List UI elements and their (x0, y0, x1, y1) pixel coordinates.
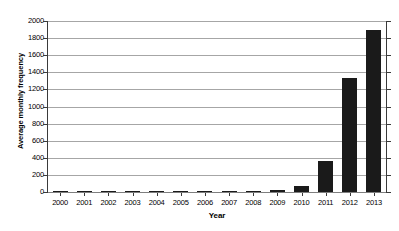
y-axis-tick-label: 0 (18, 188, 44, 196)
x-axis-tick-label: 2012 (338, 198, 362, 207)
x-axis-tick-label: 2008 (241, 198, 265, 207)
bar (294, 186, 309, 192)
y-axis-tick-label: 400 (18, 154, 44, 162)
x-axis-tick-label: 2013 (362, 198, 386, 207)
x-axis-tick-mark (205, 193, 206, 196)
bar (270, 190, 285, 192)
x-axis-tick-label: 2006 (193, 198, 217, 207)
axis-tick-mark (43, 72, 47, 73)
x-axis-tick-label: 2004 (145, 198, 169, 207)
axis-tick-mark (43, 141, 47, 142)
bar (101, 191, 116, 192)
x-axis-tick-label: 2010 (289, 198, 313, 207)
y-axis-tick-label: 1400 (18, 68, 44, 76)
bar (246, 191, 261, 192)
axis-tick-mark (43, 21, 47, 22)
y-axis-tick-label: 600 (18, 137, 44, 145)
y-axis-tick-label: 1600 (18, 51, 44, 59)
axis-tick-mark (387, 38, 391, 39)
bar (173, 191, 188, 192)
x-axis-tick-mark (157, 193, 158, 196)
x-axis-tick-mark (133, 193, 134, 196)
x-axis-tick-label: 2009 (265, 198, 289, 207)
y-axis-tick-label: 1800 (18, 34, 44, 42)
x-axis-tick-mark (326, 193, 327, 196)
bar-chart-figure: Average monthly frequency 02004006008001… (0, 0, 399, 231)
bar (125, 191, 140, 192)
axis-tick-mark (387, 175, 391, 176)
axis-tick-mark (43, 158, 47, 159)
y-axis-tick-label: 2000 (18, 17, 44, 25)
bar (77, 191, 92, 192)
y-axis-tick-label: 1000 (18, 103, 44, 111)
axis-tick-mark (387, 192, 391, 193)
bar (197, 191, 212, 192)
x-axis-tick-label: 2001 (72, 198, 96, 207)
axis-tick-mark (387, 141, 391, 142)
x-axis-tick-label: 2011 (314, 198, 338, 207)
x-axis-tick-labels: 2000200120022003200420052006200720082009… (48, 198, 386, 209)
x-axis-tick-mark (84, 193, 85, 196)
bar (222, 191, 237, 192)
x-axis-tick-mark (181, 193, 182, 196)
x-axis-tick-mark (350, 193, 351, 196)
x-axis-tick-mark (229, 193, 230, 196)
x-axis-tick-label: 2002 (96, 198, 120, 207)
y-axis-tick-label: 200 (18, 171, 44, 179)
axis-tick-mark (43, 55, 47, 56)
y-axis-tick-label: 800 (18, 120, 44, 128)
axis-tick-mark (43, 107, 47, 108)
x-axis-tick-mark (253, 193, 254, 196)
axis-tick-mark (387, 72, 391, 73)
axis-tick-mark (387, 55, 391, 56)
bar (149, 191, 164, 192)
x-axis-tick-label: 2007 (217, 198, 241, 207)
axis-tick-mark (387, 124, 391, 125)
bar (366, 30, 381, 192)
gridline (48, 192, 386, 193)
axis-tick-mark (387, 21, 391, 22)
x-axis-tick-mark (374, 193, 375, 196)
x-axis-tick-mark (108, 193, 109, 196)
x-axis-tick-label: 2005 (169, 198, 193, 207)
axis-tick-mark (43, 38, 47, 39)
axis-tick-mark (387, 158, 391, 159)
axis-tick-mark (43, 192, 47, 193)
bar (318, 161, 333, 192)
x-axis-tick-label: 2003 (120, 198, 144, 207)
x-axis-tick-mark (60, 193, 61, 196)
axis-tick-mark (387, 89, 391, 90)
bar (53, 191, 68, 192)
axis-tick-mark (387, 107, 391, 108)
x-axis-title: Year (48, 211, 386, 220)
x-axis-tick-label: 2000 (48, 198, 72, 207)
y-axis-tick-label: 1200 (18, 85, 44, 93)
x-axis-tick-mark (302, 193, 303, 196)
axis-tick-mark (43, 124, 47, 125)
axis-tick-mark (43, 175, 47, 176)
bar (342, 78, 357, 192)
y-axis-tick-labels: 0200400600800100012001400160018002000 (18, 15, 44, 195)
axis-tick-mark (43, 89, 47, 90)
bar-series (48, 21, 386, 192)
x-axis-tick-mark (277, 193, 278, 196)
